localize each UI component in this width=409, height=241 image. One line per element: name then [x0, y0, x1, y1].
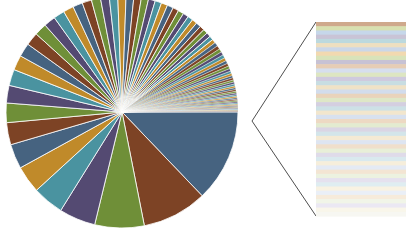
- detail-bar-segment[interactable]: [316, 68, 406, 73]
- detail-bar-segment[interactable]: [316, 47, 406, 52]
- detail-bar-segment[interactable]: [316, 136, 406, 141]
- detail-bar-segment[interactable]: [316, 43, 406, 48]
- detail-bar-segment[interactable]: [316, 98, 406, 103]
- detail-bar-segment[interactable]: [316, 144, 406, 149]
- detail-bar-segment[interactable]: [316, 153, 406, 158]
- detail-bar-segment[interactable]: [316, 127, 406, 132]
- detail-bar-segment[interactable]: [316, 64, 406, 69]
- detail-bar-segment[interactable]: [316, 81, 406, 86]
- detail-bar-segment[interactable]: [316, 161, 406, 166]
- detail-bar-segment[interactable]: [316, 119, 406, 124]
- detail-bar-segment[interactable]: [316, 73, 406, 78]
- detail-bar-segment[interactable]: [316, 26, 406, 31]
- detail-bar-segment[interactable]: [316, 111, 406, 116]
- detail-bar-segment[interactable]: [316, 191, 406, 196]
- detail-bar-segment[interactable]: [316, 186, 406, 191]
- detail-bar-segment[interactable]: [316, 22, 406, 27]
- detail-bar-segment[interactable]: [316, 165, 406, 170]
- detail-bar-segment[interactable]: [316, 157, 406, 162]
- detail-bar-segment[interactable]: [316, 56, 406, 61]
- detail-bar-segment[interactable]: [316, 89, 406, 94]
- detail-bar-segment[interactable]: [316, 77, 406, 82]
- detail-bar-segment[interactable]: [316, 178, 406, 183]
- detail-bar-segment[interactable]: [316, 208, 406, 213]
- detail-bar-segment[interactable]: [316, 195, 406, 200]
- detail-bar-segment[interactable]: [316, 52, 406, 57]
- detail-bar-segment[interactable]: [316, 170, 406, 175]
- detail-bar-segment[interactable]: [316, 94, 406, 99]
- detail-bar-segment[interactable]: [316, 115, 406, 120]
- pie-of-pie-chart: [0, 0, 409, 241]
- detail-bar-segment[interactable]: [316, 132, 406, 137]
- detail-bar-segment[interactable]: [316, 39, 406, 44]
- detail-bar-segment[interactable]: [316, 149, 406, 154]
- detail-bar-segment[interactable]: [316, 30, 406, 35]
- detail-bar-segment[interactable]: [316, 60, 406, 65]
- detail-bar-segment[interactable]: [316, 102, 406, 107]
- detail-bar-segment[interactable]: [316, 182, 406, 187]
- detail-stacked-bar-panel[interactable]: [316, 22, 406, 217]
- detail-bar-segment[interactable]: [316, 85, 406, 90]
- detail-bar-segment[interactable]: [316, 123, 406, 128]
- detail-bar-segment[interactable]: [316, 106, 406, 111]
- detail-bar-segment[interactable]: [316, 140, 406, 145]
- detail-bar-segment[interactable]: [316, 212, 406, 217]
- chart-canvas: [0, 0, 409, 241]
- pie-slices[interactable]: [6, 0, 238, 228]
- detail-bar-segment[interactable]: [316, 199, 406, 204]
- detail-bar-segment[interactable]: [316, 35, 406, 40]
- detail-bar-segment[interactable]: [316, 174, 406, 179]
- detail-bar-segment[interactable]: [316, 203, 406, 208]
